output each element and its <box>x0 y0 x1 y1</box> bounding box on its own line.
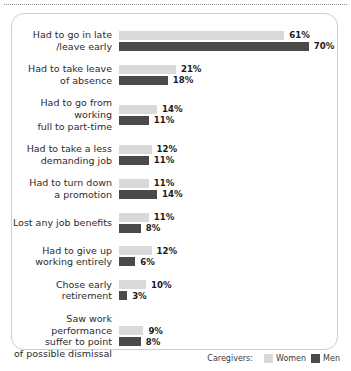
bar-row: 10% <box>119 279 339 290</box>
bar-row: 8% <box>119 336 339 347</box>
bar-women[interactable] <box>119 31 284 40</box>
bar-group: Saw work performance suffer to point of … <box>12 313 339 359</box>
bar-row: 11% <box>119 115 339 126</box>
bar-group-bars: 14%11% <box>119 104 339 126</box>
top-dotted-rule <box>4 4 347 5</box>
bar-value-label: 11% <box>154 212 175 222</box>
bar-row: 21% <box>119 64 339 75</box>
bar-row: 11% <box>119 178 339 189</box>
bar-women[interactable] <box>119 145 152 154</box>
bar-group: Had to take leave of absence21%18% <box>12 63 339 86</box>
bar-row: 12% <box>119 245 339 256</box>
legend-label-women: Women <box>276 354 306 363</box>
bar-women[interactable] <box>119 213 149 222</box>
bar-value-label: 6% <box>140 257 155 267</box>
bar-group-bars: 12%6% <box>119 245 339 267</box>
bar-men[interactable] <box>119 224 141 233</box>
legend-swatch-women-icon <box>264 354 273 363</box>
bar-group: Lost any job benefits11%8% <box>12 212 339 234</box>
bar-women[interactable] <box>119 179 149 188</box>
bar-women[interactable] <box>119 326 143 335</box>
bar-group-bars: 21%18% <box>119 64 339 86</box>
bar-row: 70% <box>119 41 339 52</box>
bar-row: 3% <box>119 290 339 301</box>
bar-group: Had to go from working full to part-time… <box>12 97 339 132</box>
bar-women[interactable] <box>119 280 146 289</box>
bar-row: 11% <box>119 212 339 223</box>
bar-value-label: 9% <box>148 326 163 336</box>
bar-men[interactable] <box>119 156 149 165</box>
bar-group-bars: 9%8% <box>119 325 339 347</box>
bar-group-label: Had to go from working full to part-time <box>12 97 119 132</box>
legend-swatch-men-icon <box>311 354 320 363</box>
bar-row: 14% <box>119 104 339 115</box>
bar-row: 12% <box>119 144 339 155</box>
chart-legend: Caregivers: Women Men <box>207 354 340 363</box>
bar-group-bars: 10%3% <box>119 279 339 301</box>
bar-group-label: Had to take leave of absence <box>12 63 119 86</box>
bar-value-label: 8% <box>146 223 161 233</box>
bar-row: 61% <box>119 30 339 41</box>
bar-men[interactable] <box>119 116 149 125</box>
bar-row: 8% <box>119 223 339 234</box>
bar-men[interactable] <box>119 257 135 266</box>
bar-men[interactable] <box>119 76 168 85</box>
bar-value-label: 12% <box>157 144 178 154</box>
bar-group-bars: 11%8% <box>119 212 339 234</box>
bar-women[interactable] <box>119 105 157 114</box>
bar-men[interactable] <box>119 42 309 51</box>
bar-value-label: 8% <box>146 337 161 347</box>
bar-value-label: 3% <box>132 291 147 301</box>
legend-title: Caregivers: <box>207 354 253 363</box>
bar-group: Had to give up working entirely12%6% <box>12 245 339 268</box>
bar-women[interactable] <box>119 65 176 74</box>
bar-men[interactable] <box>119 190 157 199</box>
bar-women[interactable] <box>119 246 152 255</box>
bar-group-label: Had to go in late /leave early <box>12 29 119 52</box>
bar-row: 6% <box>119 256 339 267</box>
bar-value-label: 18% <box>173 75 194 85</box>
bar-group-bars: 11%14% <box>119 178 339 200</box>
bar-group-bars: 12%11% <box>119 144 339 166</box>
bar-men[interactable] <box>119 337 141 346</box>
bar-value-label: 10% <box>151 280 172 290</box>
bar-value-label: 61% <box>289 30 310 40</box>
bar-value-label: 14% <box>162 104 183 114</box>
bar-row: 9% <box>119 325 339 336</box>
bar-row: 11% <box>119 155 339 166</box>
bar-value-label: 14% <box>162 189 183 199</box>
bar-group: Chose early retirement10%3% <box>12 279 339 302</box>
bar-group-label: Saw work performance suffer to point of … <box>12 313 119 359</box>
bar-value-label: 11% <box>154 155 175 165</box>
legend-item-men: Men <box>311 354 340 363</box>
bar-group: Had to go in late /leave early61%70% <box>12 29 339 52</box>
bar-group-label: Had to turn down a promotion <box>12 177 119 200</box>
bar-row: 18% <box>119 75 339 86</box>
bar-value-label: 70% <box>314 41 335 51</box>
bar-value-label: 11% <box>154 178 175 188</box>
bar-value-label: 21% <box>181 64 202 74</box>
legend-label-men: Men <box>323 354 340 363</box>
bar-value-label: 11% <box>154 115 175 125</box>
legend-item-women: Women <box>264 354 306 363</box>
bar-row: 14% <box>119 189 339 200</box>
bar-group-label: Had to take a less demanding job <box>12 143 119 166</box>
bar-group-bars: 61%70% <box>119 30 339 52</box>
chart-frame: Had to go in late /leave early61%70%Had … <box>11 13 338 350</box>
bar-chart-plot-area: Had to go in late /leave early61%70%Had … <box>12 29 339 370</box>
bar-group: Had to turn down a promotion11%14% <box>12 177 339 200</box>
bar-men[interactable] <box>119 291 127 300</box>
bar-group-label: Had to give up working entirely <box>12 245 119 268</box>
bar-value-label: 12% <box>157 246 178 256</box>
bar-group-label: Lost any job benefits <box>12 217 119 229</box>
bar-group: Had to take a less demanding job12%11% <box>12 143 339 166</box>
bar-group-label: Chose early retirement <box>12 279 119 302</box>
